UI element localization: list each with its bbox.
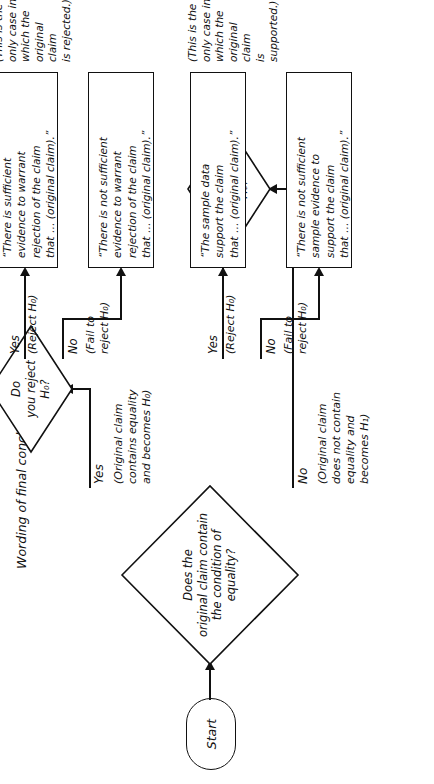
arrowhead-top-yes [20, 267, 30, 276]
conclusion-box-3: “The sample data support the claim that … [190, 72, 246, 268]
rotated-figure-wrapper: Wording of final conclusion Start Does t… [0, 0, 434, 784]
connector-top-no-h2 [120, 274, 122, 320]
start-node: Start [186, 698, 236, 770]
edge-label-equality-yes: Yes [92, 464, 107, 484]
connector-top-yes [24, 274, 26, 359]
connector-bottom-no-h2 [318, 274, 320, 320]
conclusion-note-3: (This is the only case in which the orig… [186, 0, 281, 62]
connector-bottom-no-v [260, 318, 320, 320]
edge-note-equality-no: (Original claim does not contain equalit… [316, 324, 372, 484]
edge-label-bottom-no: No [264, 338, 278, 354]
edge-label-bottom-yes: Yes [206, 335, 220, 354]
conclusion-box-4: “There is not sufficient sample evidence… [286, 72, 352, 268]
start-node-label: Start [204, 719, 219, 750]
connector-equality-yes-h [89, 388, 91, 488]
arrowhead-bottom-no [314, 267, 324, 276]
edge-label-top-no: No [66, 338, 80, 354]
connector-top-no-v [62, 318, 122, 320]
flowchart-canvas: Wording of final conclusion Start Does t… [0, 0, 434, 784]
connector-start-to-equality [209, 668, 211, 700]
connector-bottom-no-h [260, 319, 262, 359]
edge-note-equality-yes: (Original claim contains equality and be… [112, 324, 154, 484]
edge-label-top-yes: Yes [8, 335, 22, 354]
conclusion-box-2: “There is not sufficient evidence to war… [88, 72, 154, 268]
conclusion-box-1: “There is sufficient evidence to warrant… [0, 72, 58, 268]
conclusion-note-1: (This is the only case in which the orig… [0, 0, 73, 62]
connector-top-no-h [62, 319, 64, 359]
arrowhead-top-no [116, 267, 126, 276]
decision-equality: Does the original claim contain the cond… [120, 484, 300, 666]
edge-label-equality-no: No [296, 468, 311, 484]
connector-equality-yes-v [72, 388, 91, 390]
arrowhead-bottom-yes [218, 267, 228, 276]
